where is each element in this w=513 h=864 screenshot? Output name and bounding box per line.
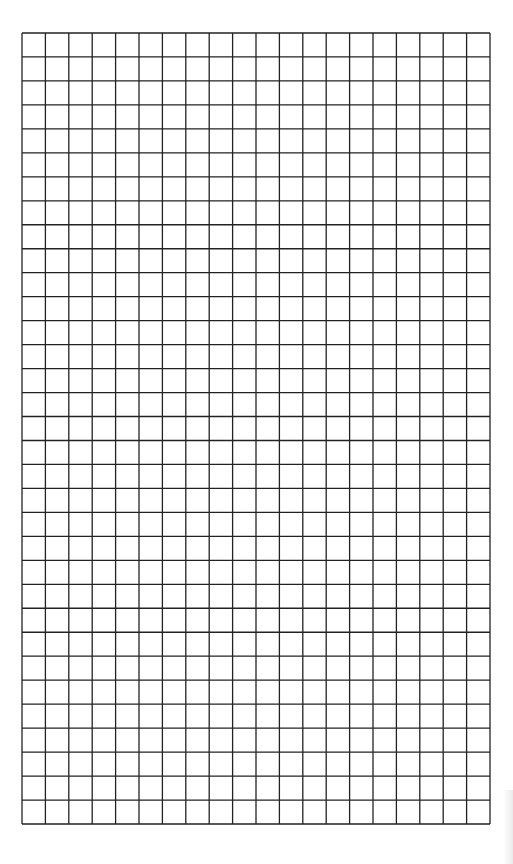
grid-lines — [22, 33, 490, 824]
page-edge-shadow — [503, 790, 513, 864]
graph-paper-grid — [22, 33, 490, 824]
